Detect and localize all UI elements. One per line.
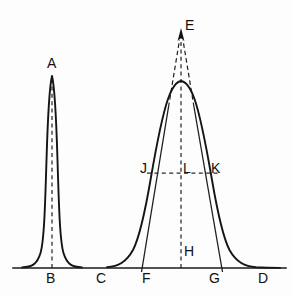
tangent-construction-group [142,40,223,272]
label-f: F [142,271,151,285]
peak-diagram-svg [0,0,293,296]
label-d: D [258,271,268,285]
arrow-up-icon [178,28,185,41]
label-b: B [46,271,55,285]
label-e: E [185,18,194,32]
label-h: H [184,244,194,258]
tangent-right-solid [194,107,223,272]
label-j: J [140,161,147,175]
tangent-left-solid [142,107,169,272]
figure-container: A B C D E F G H J K L [0,0,293,296]
label-k: K [211,161,220,175]
label-g: G [209,271,220,285]
label-c: C [96,271,106,285]
label-l: L [183,161,191,175]
peak-curve-e [107,81,280,268]
tangent-left-dashed [169,40,180,107]
label-a: A [47,56,56,70]
tangent-right-dashed [183,40,194,107]
